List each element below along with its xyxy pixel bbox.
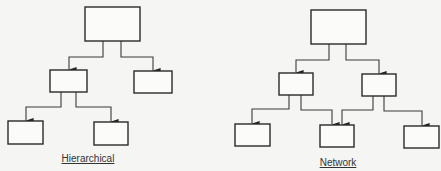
node-grandchild-left (8, 121, 43, 144)
network-label: Network (320, 157, 358, 168)
node-bottom-center (320, 125, 354, 147)
edge-child-left-to-grandchild-right (76, 92, 111, 122)
hierarchical-diagram (8, 7, 172, 145)
node-child-right (134, 71, 172, 93)
edge-mid-right-to-bottom-center (342, 96, 373, 125)
edge-root-to-mid-right (346, 44, 379, 74)
edge-root-to-mid-left (296, 44, 329, 73)
node-mid-left (279, 73, 313, 95)
diagram-canvas: Hierarchical Network (0, 0, 441, 171)
node-root (311, 10, 366, 44)
node-grandchild-right (94, 122, 128, 145)
edge-root-to-child-right (121, 41, 153, 71)
edge-root-to-child-left (69, 41, 103, 70)
edge-mid-right-to-bottom-right (384, 96, 422, 126)
node-child-left (50, 70, 87, 92)
node-bottom-right (404, 126, 439, 148)
edge-mid-left-to-bottom-left (252, 95, 289, 124)
edge-child-left-to-grandchild-left (26, 92, 61, 121)
node-mid-right (362, 74, 396, 96)
node-root (85, 7, 140, 41)
edge-mid-left-to-bottom-center (301, 95, 332, 125)
network-diagram (235, 10, 439, 148)
node-bottom-left (235, 124, 270, 146)
hierarchical-label: Hierarchical (62, 153, 115, 164)
